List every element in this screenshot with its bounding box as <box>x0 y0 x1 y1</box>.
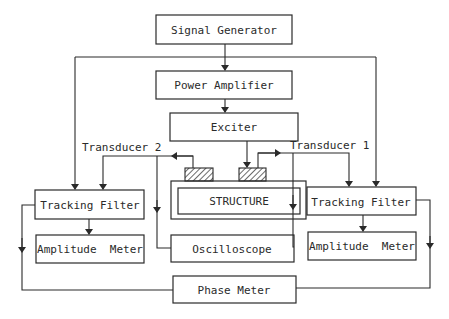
transducer-1-sensor <box>239 168 266 181</box>
tracking-filter-left-block: Tracking Filter <box>35 190 144 219</box>
tracking-filter-right-block: Tracking Filter <box>307 187 416 215</box>
tracking-filter-right-label: Tracking Filter <box>311 196 411 209</box>
signal-generator-block: Signal Generator <box>156 15 292 44</box>
transducer-2-sensor <box>185 168 213 181</box>
transducer-2-label: Transducer 2 <box>82 141 161 154</box>
power-amplifier-label: Power Amplifier <box>174 79 274 92</box>
block-diagram: Signal Generator Power Amplifier Exciter… <box>0 0 449 319</box>
structure-label: STRUCTURE <box>209 195 269 208</box>
amplitude-meter-right-block: Amplitude Meter <box>308 232 416 260</box>
exciter-block: Exciter <box>170 113 298 141</box>
transducer-1-label: Transducer 1 <box>290 139 369 152</box>
amplitude-meter-left-label: Amplitude Meter <box>37 243 143 256</box>
oscilloscope-block: Oscilloscope <box>171 235 294 262</box>
structure-block: STRUCTURE <box>171 181 306 219</box>
oscilloscope-label: Oscilloscope <box>192 243 271 256</box>
signal-generator-label: Signal Generator <box>171 24 277 37</box>
power-amplifier-block: Power Amplifier <box>156 71 292 99</box>
tracking-filter-left-label: Tracking Filter <box>40 199 140 212</box>
phase-meter-block: Phase Meter <box>173 276 296 303</box>
transducer-2-to-oscilloscope <box>157 156 171 248</box>
amplitude-meter-right-label: Amplitude Meter <box>309 240 415 253</box>
exciter-label: Exciter <box>211 121 258 134</box>
phase-meter-label: Phase Meter <box>198 284 271 297</box>
amplitude-meter-left-block: Amplitude Meter <box>36 235 144 263</box>
